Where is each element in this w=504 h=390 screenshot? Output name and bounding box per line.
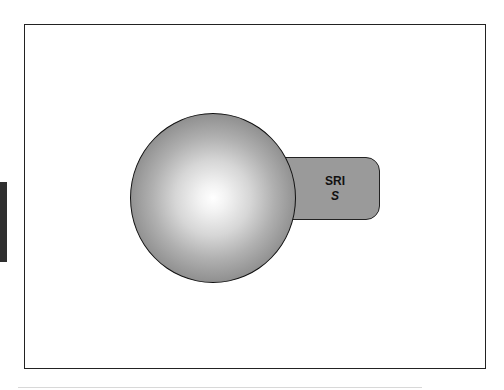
side-edge-bar: [0, 182, 7, 262]
tab-label-line2: S: [300, 189, 370, 204]
tab-label-line1: SRI: [300, 174, 370, 189]
tab-label: SRI S: [300, 174, 370, 204]
sphere-shape: [130, 113, 296, 283]
bottom-divider: [18, 387, 422, 388]
